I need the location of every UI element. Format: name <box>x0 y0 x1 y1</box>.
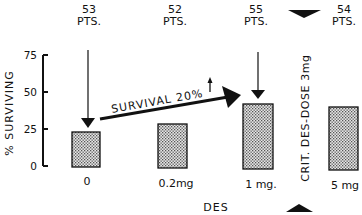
x-axis-label: DES <box>203 201 228 214</box>
y-axis: 75 50 25 0 <box>24 49 48 172</box>
marker-down-triangle-icon <box>288 10 321 18</box>
patient-count-headers: 53 PTS. 52 PTS. 55 PTS. 54 PTS. <box>77 3 356 28</box>
down-arrow-icon <box>251 52 265 99</box>
critical-dose-marker: CRIT. DES-DOSE 3mg <box>286 10 321 212</box>
up-arrow-icon <box>208 77 213 92</box>
bar-0.2mg <box>158 124 187 168</box>
y-tick-label: 50 <box>24 86 37 98</box>
patient-count-unit: PTS. <box>163 15 187 28</box>
survival-bar-chart: % SURVIVING 75 50 25 0 53 PTS. 52 PTS. 5… <box>0 0 362 215</box>
critical-dose-label: CRIT. DES-DOSE 3mg <box>299 54 312 181</box>
bar-5mg <box>329 107 358 170</box>
survival-annotation: SURVIVAL 20% <box>110 87 204 116</box>
patient-count-unit: PTS. <box>332 15 356 28</box>
patient-count-unit: PTS. <box>77 15 101 28</box>
patient-count-unit: PTS. <box>244 15 268 28</box>
y-axis-label: % SURVIVING <box>3 70 16 155</box>
y-tick-label: 0 <box>30 160 37 172</box>
bar-1mg <box>243 104 273 169</box>
y-tick-label: 25 <box>24 123 37 135</box>
x-tick-label: 0 <box>84 175 91 188</box>
x-tick-label: 1 mg. <box>245 178 277 191</box>
down-arrow-icon <box>81 50 95 128</box>
x-tick-label: 0.2mg <box>158 177 193 190</box>
x-tick-label: 5 mg <box>331 179 359 192</box>
y-tick-label: 75 <box>24 49 37 61</box>
marker-up-triangle-icon <box>286 204 313 212</box>
x-category-labels: 0 0.2mg 1 mg. 5 mg <box>84 175 360 192</box>
bar-0mg <box>72 132 100 167</box>
